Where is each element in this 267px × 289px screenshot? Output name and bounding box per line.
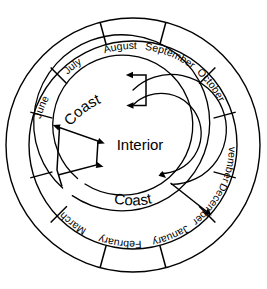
zone-label-interior: Interior bbox=[117, 136, 164, 153]
arrow-head-top-left bbox=[126, 72, 133, 78]
month-label-april: April bbox=[0, 0, 4, 2]
month-divider bbox=[160, 246, 166, 268]
seasonal-round-svg: June July August September October Novem… bbox=[0, 0, 267, 289]
arrow-head-left-lower bbox=[96, 162, 105, 170]
seasonal-round-diagram: June July August September October Novem… bbox=[0, 0, 267, 289]
month-label-may: May bbox=[0, 0, 4, 2]
month-divider bbox=[160, 22, 166, 44]
month-label-march: March bbox=[57, 210, 88, 238]
connector-right-line bbox=[171, 183, 207, 211]
month-labels: June July August September October Novem… bbox=[0, 0, 239, 251]
month-label-january: January bbox=[151, 223, 192, 249]
month-label-september: September bbox=[145, 40, 199, 71]
month-divider bbox=[100, 22, 106, 44]
month-label-december: December bbox=[190, 182, 230, 229]
month-label-july: July bbox=[61, 55, 84, 77]
zone-labels: Coast Coast Interior bbox=[60, 90, 163, 209]
arrow-head-top-inner bbox=[126, 102, 133, 108]
zone-label-coast-upper: Coast bbox=[60, 90, 103, 129]
zone-label-coast-lower: Coast bbox=[113, 189, 154, 208]
connector-top-line bbox=[133, 75, 146, 106]
connector-right bbox=[158, 171, 213, 218]
month-divider bbox=[100, 246, 106, 268]
month-label-august: August bbox=[102, 39, 137, 55]
